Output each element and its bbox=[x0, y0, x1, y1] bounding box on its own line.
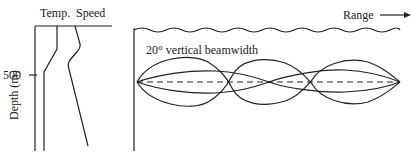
depth-axis-label: Depth (m) bbox=[8, 70, 20, 120]
temperature-column-label: Temp. bbox=[40, 7, 70, 19]
diagram-canvas bbox=[0, 0, 414, 161]
profile-panel bbox=[29, 26, 112, 151]
beamwidth-label: 20° vertical beamwidth bbox=[146, 44, 258, 56]
propagation-panel bbox=[134, 12, 411, 151]
ray-shallow-up bbox=[137, 70, 400, 82]
sea-surface-wave bbox=[134, 28, 400, 32]
range-arrow-head bbox=[404, 12, 411, 18]
range-label: Range bbox=[343, 9, 374, 21]
ray-steep-down bbox=[137, 60, 400, 107]
sound-speed-column-label: Speed bbox=[76, 7, 105, 19]
ray-shallow-down bbox=[137, 82, 400, 93]
temperature-profile-curve bbox=[44, 26, 57, 151]
sound-speed-profile-curve bbox=[68, 26, 88, 146]
ray-steep-up bbox=[137, 57, 400, 104]
